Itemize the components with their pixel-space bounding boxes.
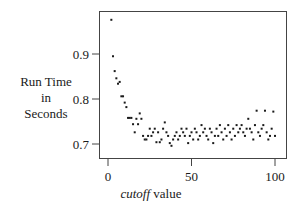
data-point bbox=[110, 19, 112, 21]
y-axis-label-line3: Seconds bbox=[16, 106, 76, 122]
data-point bbox=[172, 139, 174, 141]
y-axis-label: Run Time in Seconds bbox=[16, 74, 76, 122]
data-point bbox=[207, 139, 209, 141]
data-point bbox=[232, 128, 234, 130]
data-point bbox=[187, 142, 189, 144]
data-point bbox=[169, 142, 171, 144]
data-point bbox=[221, 131, 223, 133]
data-point bbox=[150, 135, 152, 137]
x-axis-label-italic: cutoff bbox=[120, 186, 150, 201]
data-point bbox=[252, 139, 254, 141]
data-point bbox=[182, 131, 184, 133]
data-point bbox=[112, 55, 114, 57]
data-point bbox=[204, 128, 206, 130]
data-point bbox=[269, 135, 271, 137]
data-point bbox=[119, 81, 121, 83]
x-axis-label: cutoff value bbox=[0, 186, 302, 202]
data-point bbox=[209, 128, 211, 130]
data-point bbox=[197, 139, 199, 141]
data-point bbox=[219, 124, 221, 126]
data-point bbox=[242, 131, 244, 133]
data-point bbox=[194, 128, 196, 130]
data-point bbox=[266, 131, 268, 133]
data-point bbox=[159, 141, 161, 143]
data-points bbox=[110, 19, 276, 147]
data-point bbox=[189, 135, 191, 137]
y-tick-label: 0.7 bbox=[73, 137, 90, 152]
data-point bbox=[231, 139, 233, 141]
data-point bbox=[137, 123, 139, 125]
data-point bbox=[206, 135, 208, 137]
data-point bbox=[234, 135, 236, 137]
x-axis-label-rest: value bbox=[150, 186, 181, 201]
data-point bbox=[264, 110, 266, 112]
data-point bbox=[237, 131, 239, 133]
data-point bbox=[196, 131, 198, 133]
data-point bbox=[155, 141, 157, 143]
data-point bbox=[132, 123, 134, 125]
y-axis-label-line2: in bbox=[16, 90, 76, 106]
y-tick-label: 0.9 bbox=[73, 47, 89, 62]
x-tick-label: 50 bbox=[185, 169, 198, 184]
data-point bbox=[262, 124, 264, 126]
data-point bbox=[272, 111, 274, 113]
data-point bbox=[175, 131, 177, 133]
data-point bbox=[227, 124, 229, 126]
data-point bbox=[212, 142, 214, 144]
data-point bbox=[211, 131, 213, 133]
x-tick-label: 0 bbox=[105, 169, 112, 184]
data-point bbox=[267, 139, 269, 141]
data-point bbox=[164, 121, 166, 123]
data-point bbox=[162, 128, 164, 130]
data-point bbox=[224, 128, 226, 130]
data-point bbox=[180, 128, 182, 130]
data-point bbox=[251, 131, 253, 133]
data-point bbox=[122, 95, 124, 97]
data-point bbox=[244, 135, 246, 137]
data-point bbox=[259, 135, 261, 137]
data-point bbox=[140, 118, 142, 120]
data-point bbox=[134, 131, 136, 133]
data-point bbox=[160, 139, 162, 141]
data-point bbox=[167, 135, 169, 137]
data-point bbox=[246, 128, 248, 130]
data-point bbox=[229, 131, 231, 133]
data-point bbox=[135, 118, 137, 120]
data-point bbox=[274, 135, 276, 137]
data-point bbox=[184, 135, 186, 137]
data-point bbox=[222, 139, 224, 141]
x-tick-label: 100 bbox=[265, 169, 285, 184]
data-point bbox=[247, 118, 249, 120]
x-axis-ticks: 050100 bbox=[105, 159, 285, 185]
data-point bbox=[249, 128, 251, 130]
data-point bbox=[202, 131, 204, 133]
data-point bbox=[142, 135, 144, 137]
data-point bbox=[145, 139, 147, 141]
data-point bbox=[117, 83, 119, 85]
data-point bbox=[115, 77, 117, 79]
data-point bbox=[124, 102, 126, 104]
data-point bbox=[254, 124, 256, 126]
data-point bbox=[199, 135, 201, 137]
data-point bbox=[157, 131, 159, 133]
data-point bbox=[192, 139, 194, 141]
data-point bbox=[147, 135, 149, 137]
data-point bbox=[165, 131, 167, 133]
y-axis-ticks: 0.70.80.9 bbox=[73, 47, 100, 152]
plot-frame bbox=[100, 12, 287, 159]
data-point bbox=[261, 128, 263, 130]
data-point bbox=[174, 135, 176, 137]
data-point bbox=[179, 135, 181, 137]
data-point bbox=[217, 135, 219, 137]
data-point bbox=[201, 124, 203, 126]
data-point bbox=[214, 135, 216, 137]
data-point bbox=[130, 117, 132, 119]
data-point bbox=[256, 110, 258, 112]
data-point bbox=[139, 112, 141, 114]
data-point bbox=[226, 135, 228, 137]
data-point bbox=[236, 124, 238, 126]
data-point bbox=[271, 128, 273, 130]
data-point bbox=[185, 128, 187, 130]
data-point bbox=[241, 124, 243, 126]
data-point bbox=[191, 131, 193, 133]
